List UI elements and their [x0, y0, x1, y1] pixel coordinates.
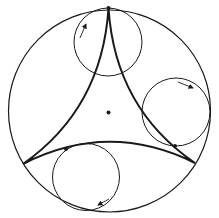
tracing-point-dot — [64, 147, 68, 151]
rotation-arrow-icon — [178, 82, 193, 88]
deltoid-curve — [23, 8, 195, 164]
center-dot — [107, 111, 111, 115]
rolling-circle-right — [142, 78, 210, 146]
tracing-point-dot — [107, 6, 111, 10]
rotation-arrow-icon — [80, 24, 86, 38]
rolling-circles — [53, 6, 211, 211]
diagram-canvas — [0, 0, 219, 218]
rolling-circle-bottom — [53, 144, 120, 211]
rotation-arrow-icon — [98, 199, 109, 205]
tracing-point-dot — [173, 144, 177, 148]
deltoid-diagram — [0, 0, 219, 218]
